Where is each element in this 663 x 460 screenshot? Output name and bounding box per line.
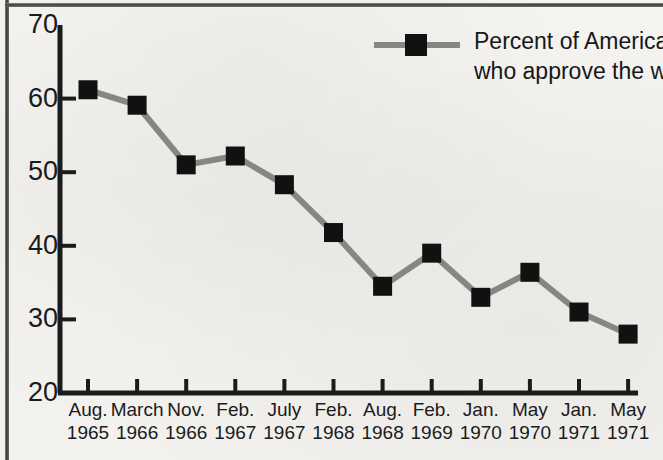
legend-square-marker-icon: [405, 34, 427, 56]
data-line-series-1: [88, 90, 628, 334]
y-tick-label-40: 40: [12, 232, 58, 259]
data-point-6: [373, 277, 392, 296]
data-point-1: [128, 96, 147, 115]
x-axis-labels: Aug.1965March1966Nov.1966Feb.1967July196…: [0, 398, 663, 460]
data-point-10: [570, 303, 589, 322]
legend-label-line-2: who approve the war: [474, 56, 654, 86]
data-point-2: [177, 155, 196, 174]
data-point-11: [619, 325, 638, 344]
chart-figure: 706050403020 Aug.1965March1966Nov.1966Fe…: [0, 0, 663, 460]
x-tick-label-month-11: May: [596, 398, 660, 421]
data-point-markers: [79, 80, 638, 343]
x-tick-label-year-11: 1971: [596, 421, 660, 444]
y-tick-label-60: 60: [12, 85, 58, 112]
legend-label: Percent of Americans who approve the war: [474, 26, 654, 86]
data-point-4: [275, 175, 294, 194]
y-tick-label-50: 50: [12, 158, 58, 185]
data-point-7: [422, 244, 441, 263]
data-point-5: [324, 223, 343, 242]
chart-legend: Percent of Americans who approve the war: [374, 26, 654, 98]
data-point-0: [79, 80, 98, 99]
data-point-9: [520, 263, 539, 282]
data-point-8: [471, 288, 490, 307]
x-tick-label-11: May1971: [596, 398, 660, 444]
legend-label-line-1: Percent of Americans: [474, 26, 654, 56]
y-axis-labels: 706050403020: [12, 0, 58, 460]
data-point-3: [226, 147, 245, 166]
y-tick-label-70: 70: [12, 11, 58, 38]
y-tick-label-30: 30: [12, 305, 58, 332]
